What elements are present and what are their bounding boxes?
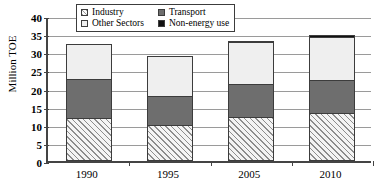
bar-segment-transport [228, 84, 274, 118]
bar-2005 [228, 42, 274, 161]
y-tick-label: 25 [31, 66, 42, 78]
stacked-bar-chart: Million TOE 0510152025303540 19901995200… [0, 0, 381, 186]
plot-area [46, 18, 371, 163]
y-tick-label: 20 [31, 85, 42, 97]
y-tick-mark [44, 145, 49, 146]
bar-segment-industry [66, 118, 112, 161]
y-tick-label: 10 [31, 121, 42, 133]
bar-segment-other [309, 37, 355, 82]
bar-segment-transport [147, 96, 193, 126]
legend-item[interactable]: Transport [158, 7, 229, 17]
bar-1995 [147, 57, 193, 161]
non-energy-use-swatch [158, 20, 165, 27]
y-tick-label: 30 [31, 48, 42, 60]
bar-2010 [309, 36, 355, 161]
x-tick-label: 1995 [157, 168, 179, 180]
bar-segment-industry [147, 125, 193, 161]
y-tick-mark [44, 72, 49, 73]
other-sectors-swatch [81, 20, 88, 27]
y-tick-mark [44, 18, 49, 19]
x-tick-mark [373, 161, 374, 166]
legend-item[interactable]: Other Sectors [81, 18, 144, 28]
industry-swatch [81, 9, 88, 16]
y-tick-mark [44, 91, 49, 92]
y-tick-label: 5 [37, 139, 43, 151]
bar-segment-transport [66, 79, 112, 119]
legend-label: Non-energy use [169, 18, 229, 28]
y-tick-label: 40 [31, 12, 42, 24]
y-axis-tick-labels: 0510152025303540 [14, 18, 42, 163]
legend-item[interactable]: Industry [81, 7, 144, 17]
x-tick-label: 2005 [238, 168, 260, 180]
bar-segment-other [147, 56, 193, 97]
y-tick-mark [44, 36, 49, 37]
bar-segment-industry [228, 117, 274, 161]
y-tick-mark [44, 109, 49, 110]
legend-label: Industry [92, 7, 124, 17]
x-tick-label: 1990 [76, 168, 98, 180]
chart-legend: IndustryTransportOther SectorsNon-energy… [76, 4, 235, 32]
x-axis-tick-labels: 1990199520052010 [46, 168, 371, 184]
bar-segment-transport [309, 80, 355, 114]
bar-segment-other [66, 44, 112, 80]
transport-swatch [158, 9, 165, 16]
legend-label: Transport [169, 7, 206, 17]
x-tick-label: 2010 [319, 168, 341, 180]
legend-label: Other Sectors [92, 18, 144, 28]
y-tick-label: 35 [31, 30, 42, 42]
bar-segment-other [228, 42, 274, 85]
bar-1990 [66, 45, 112, 161]
bar-segment-industry [309, 113, 355, 161]
x-tick-mark [211, 161, 212, 166]
y-tick-label: 0 [37, 157, 43, 169]
y-tick-mark [44, 127, 49, 128]
y-tick-mark [44, 163, 49, 164]
x-tick-mark [129, 161, 130, 166]
legend-item[interactable]: Non-energy use [158, 18, 229, 28]
y-tick-label: 15 [31, 103, 42, 115]
x-tick-mark [292, 161, 293, 166]
y-tick-mark [44, 54, 49, 55]
